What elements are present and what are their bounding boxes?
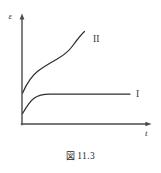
creep-curve-plot: ε t II I: [0, 0, 161, 173]
figure-caption: 図11.3: [0, 149, 161, 162]
caption-mark-glyph: 図: [66, 151, 75, 161]
curve-one-path: [23, 94, 130, 113]
figure-container: ε t II I 図11.3: [0, 0, 161, 173]
curve-one-label: I: [136, 89, 139, 99]
x-axis-arrowhead: [145, 122, 151, 127]
curve-two-label: II: [93, 34, 99, 44]
caption-number: 11.3: [77, 151, 95, 161]
curve-two-path: [23, 32, 85, 94]
y-axis-arrowhead: [20, 14, 25, 20]
y-axis-label: ε: [9, 11, 13, 21]
x-axis-label: t: [145, 128, 148, 138]
